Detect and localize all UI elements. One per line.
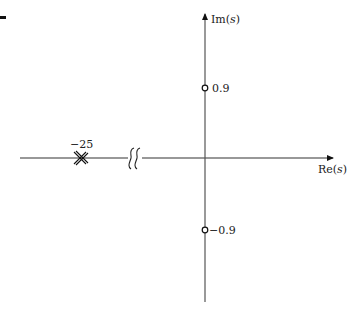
imaginary-axis-label: Im(s) xyxy=(211,13,240,26)
real-axis-label: Re(s) xyxy=(318,163,347,176)
zero-label-positive: 0.9 xyxy=(212,82,230,95)
pole-zero-diagram: Im(s) Re(s) −25 0.9 −0.9 xyxy=(0,0,355,319)
zero-label-negative: −0.9 xyxy=(209,224,236,237)
zero-marker-icon xyxy=(202,227,208,233)
axis-break-icon xyxy=(129,148,140,169)
pole-label: −25 xyxy=(70,138,93,151)
zero-marker-icon xyxy=(202,85,208,91)
